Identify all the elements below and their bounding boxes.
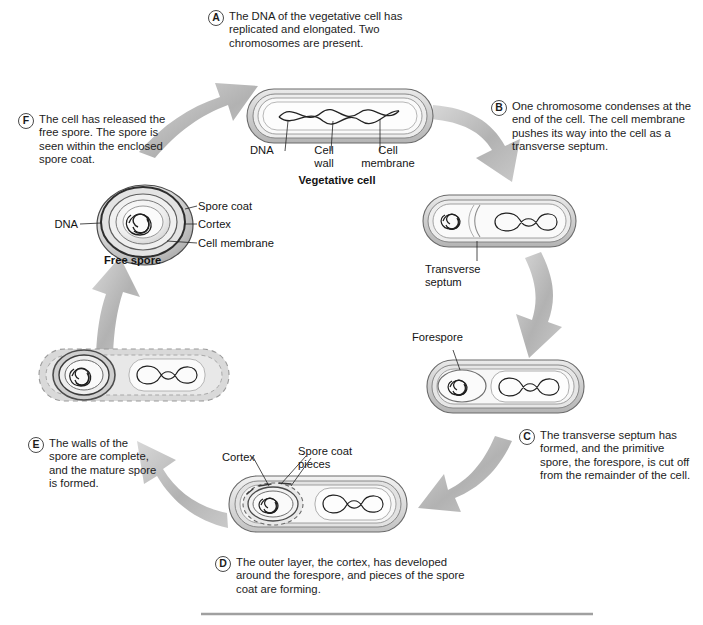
sporulation-cycle-diagram: A The DNA of the vegetative cell has rep… <box>0 0 703 625</box>
step-caption-f: F The cell has released the free spore. … <box>18 113 178 167</box>
label-stage-a-cell-wall-line2: wall <box>307 157 341 170</box>
step-text-f: The cell has released the free spore. Th… <box>39 113 178 167</box>
step-caption-c: C The transverse septum has formed, and … <box>519 429 691 483</box>
label-stage-f-cortex: Cortex <box>198 218 231 231</box>
label-spore-coat-pieces-line1: Spore coat <box>298 445 352 458</box>
cell-stage-b <box>423 195 576 261</box>
label-vegetative-cell-caption: Vegetative cell <box>277 174 397 187</box>
mature-spore-e <box>53 350 115 400</box>
step-text-c: The transverse septum has formed, and th… <box>540 429 691 483</box>
label-stage-a-dna: DNA <box>250 144 274 157</box>
label-forespore: Forespore <box>412 331 463 344</box>
label-spore-coat-pieces-line2: pieces <box>298 458 330 471</box>
label-stage-a-cell-membrane-line2: membrane <box>355 157 421 170</box>
arrow-e-to-f <box>92 257 140 355</box>
label-spore-coat: Spore coat <box>198 200 252 213</box>
label-stage-f-dna: DNA <box>30 218 78 231</box>
step-letter-d: D <box>215 556 231 572</box>
step-caption-a: A The DNA of the vegetative cell has rep… <box>208 10 403 50</box>
step-letter-a: A <box>208 10 224 26</box>
step-text-e: The walls of the spore are complete, and… <box>49 437 158 491</box>
step-letter-f: F <box>18 113 34 129</box>
step-caption-e: E The walls of the spore are complete, a… <box>28 437 158 491</box>
step-letter-c: C <box>519 429 535 445</box>
step-letter-b: B <box>491 100 507 116</box>
cell-stage-a <box>247 89 433 151</box>
arrow-c-to-d <box>418 436 512 512</box>
label-stage-a-cell-membrane-line1: Cell <box>355 144 421 157</box>
label-stage-d-cortex: Cortex <box>222 451 255 464</box>
label-free-spore-caption: Free spore <box>104 254 161 267</box>
label-transverse-septum-line1: Transverse <box>425 263 481 276</box>
step-caption-d: D The outer layer, the cortex, has devel… <box>215 556 465 596</box>
label-transverse-septum-line2: septum <box>425 276 462 289</box>
step-text-a: The DNA of the vegetative cell has repli… <box>229 10 403 50</box>
step-text-d: The outer layer, the cortex, has develop… <box>236 556 465 596</box>
cell-stage-c <box>427 350 584 413</box>
label-stage-f-cell-membrane: Cell membrane <box>198 237 274 250</box>
step-letter-e: E <box>28 437 44 453</box>
step-caption-b: B One chromosome condenses at the end of… <box>491 100 696 154</box>
arrow-b-to-c <box>516 252 562 358</box>
cell-stage-e <box>39 349 229 401</box>
forespore-compartment <box>438 370 486 402</box>
cell-stage-f <box>80 185 197 265</box>
step-text-b: One chromosome condenses at the end of t… <box>512 100 696 154</box>
diagram-artwork <box>0 0 703 625</box>
label-stage-a-cell-wall-line1: Cell <box>307 144 341 157</box>
